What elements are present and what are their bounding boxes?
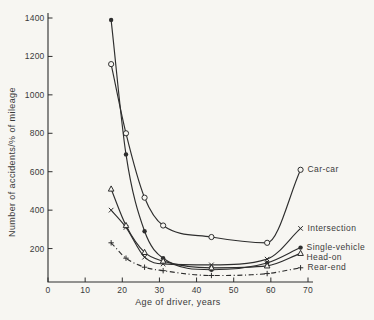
y-tick-label: 600 <box>30 167 45 177</box>
plus-marker-rear-end <box>264 271 269 276</box>
x-tick-label: 10 <box>80 285 90 295</box>
x-tick-label: 70 <box>303 285 313 295</box>
plus-marker-rear-end <box>142 265 147 270</box>
axes: 010203040506070200400600800100012001400 <box>25 13 313 295</box>
x-tick-label: 50 <box>229 285 239 295</box>
y-tick-label: 1400 <box>25 13 45 23</box>
series-line-intersection <box>111 210 301 265</box>
filled-circle-marker-single-vehicle <box>298 245 302 249</box>
accident-rate-figure: 010203040506070200400600800100012001400 … <box>0 0 374 320</box>
open-circle-marker-car-car <box>123 131 128 136</box>
series-line-single-vehicle <box>111 20 301 270</box>
open-triangle-marker-head-on <box>108 186 114 191</box>
x-tick-label: 0 <box>46 285 51 295</box>
y-tick-label: 400 <box>30 205 45 215</box>
y-tick-label: 200 <box>30 244 45 254</box>
series-line-head-on <box>111 189 301 268</box>
x-tick-label: 40 <box>192 285 202 295</box>
open-triangle-marker-head-on <box>298 250 304 255</box>
x-tick-label: 30 <box>154 285 164 295</box>
x-tick-label: 60 <box>266 285 276 295</box>
x-marker-intersection <box>109 208 114 213</box>
accidents-vs-age-line-chart: 010203040506070200400600800100012001400 … <box>0 0 374 320</box>
open-circle-marker-car-car <box>209 234 214 239</box>
x-axis-title: Age of driver, years <box>135 297 221 307</box>
open-circle-marker-car-car <box>298 167 303 172</box>
x-tick-label: 20 <box>117 285 127 295</box>
y-axis-title: Number of accidents/% of mileage <box>7 87 17 237</box>
plus-marker-rear-end <box>209 273 214 278</box>
open-circle-marker-car-car <box>109 62 114 67</box>
x-marker-intersection <box>298 226 303 231</box>
series-label-head-on: Head-on <box>307 252 342 262</box>
x-marker-intersection <box>142 255 147 260</box>
open-circle-marker-car-car <box>142 195 147 200</box>
series-label-single-vehicle: Single-vehicle <box>307 242 366 252</box>
open-circle-marker-car-car <box>265 240 270 245</box>
filled-circle-marker-single-vehicle <box>124 152 128 156</box>
plus-marker-rear-end <box>298 265 303 270</box>
series-label-rear-end: Rear-end <box>308 262 347 272</box>
plus-marker-rear-end <box>160 268 165 273</box>
axis-lines <box>48 13 313 282</box>
y-tick-label: 1000 <box>25 90 45 100</box>
y-tick-label: 800 <box>30 128 45 138</box>
series-label-car-car: Car-car <box>308 164 339 174</box>
series-label-intersection: Intersection <box>308 223 357 233</box>
open-triangle-marker-head-on <box>123 222 129 227</box>
y-tick-label: 1200 <box>25 51 45 61</box>
open-circle-marker-car-car <box>161 223 166 228</box>
plot-area: Car-carIntersectionSingle-vehicleHead-on… <box>108 18 365 278</box>
filled-circle-marker-single-vehicle <box>109 18 113 22</box>
filled-circle-marker-single-vehicle <box>142 229 146 233</box>
